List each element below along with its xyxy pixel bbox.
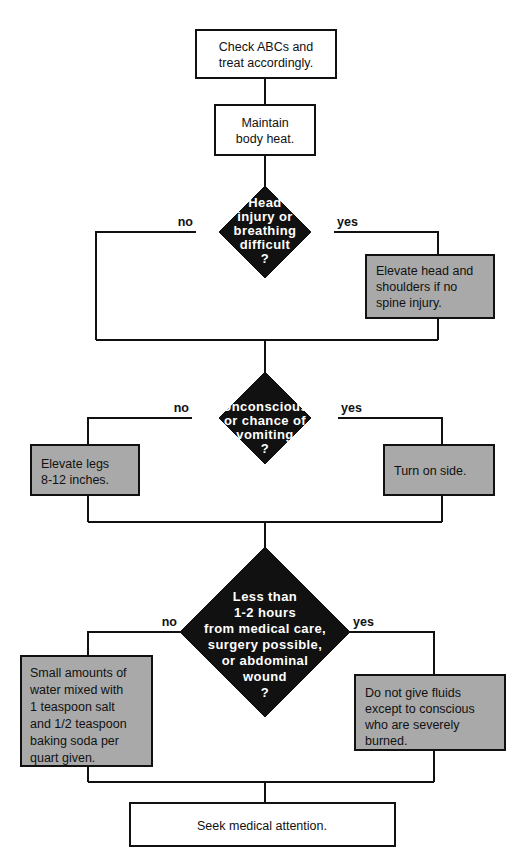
node-decision2: Unconscious or chance of vomiting ? no y… <box>174 372 362 464</box>
action-fluids-line-5: baking soda per <box>30 734 119 748</box>
warmth-line-1: Maintain <box>241 116 288 130</box>
decision2-line-4: ? <box>261 441 269 456</box>
decision1-line-2: injury or <box>237 209 293 224</box>
action-nofluids-line-1: Do not give fluids <box>365 686 461 700</box>
action-legs-line-2: 8-12 inches. <box>41 473 109 487</box>
decision3-branch-no: no <box>162 615 178 629</box>
decision2-branch-no: no <box>174 401 190 415</box>
node-action-side: Turn on side. <box>384 445 494 495</box>
warmth-line-2: body heat. <box>236 132 294 146</box>
decision1-line-3: breathing <box>234 223 297 238</box>
action-nofluids-line-2: except to conscious <box>365 702 475 716</box>
decision2-line-1: Unconscious <box>222 399 308 414</box>
decision1-line-4: difficult <box>240 237 291 252</box>
decision2-line-3: vomiting <box>236 427 293 442</box>
action-fluids-line-3: 1 teaspoon salt <box>30 700 115 714</box>
warmth-box <box>215 105 315 155</box>
node-warmth: Maintain body heat. <box>215 105 315 155</box>
flowchart-canvas: Check ABCs and treat accordingly. Mainta… <box>0 0 528 867</box>
decision1-branch-yes: yes <box>337 215 358 229</box>
decision3-line-7: ? <box>261 685 269 700</box>
decision3-line-5: or abdominal <box>222 653 308 668</box>
action-legs-line-1: Elevate legs <box>41 457 109 471</box>
node-decision1: Head injury or breathing difficult ? no … <box>178 186 358 278</box>
action-fluids-line-4: and 1/2 teaspoon <box>30 717 127 731</box>
action-head-line-3: spine injury. <box>376 296 442 310</box>
decision3-line-4: surgery possible, <box>208 637 322 652</box>
node-decision3: Less than 1-2 hours from medical care, s… <box>162 547 374 717</box>
action-fluids-line-2: water mixed with <box>29 683 123 697</box>
action-head-line-1: Elevate head and <box>376 264 473 278</box>
node-action-nofluids: Do not give fluids except to conscious w… <box>355 675 505 750</box>
decision2-branch-yes: yes <box>341 401 362 415</box>
decision1-line-1: Head <box>248 195 281 210</box>
flowchart-svg: Check ABCs and treat accordingly. Mainta… <box>0 0 528 867</box>
node-action-fluids: Small amounts of water mixed with 1 teas… <box>21 656 152 766</box>
action-head-line-2: shoulders if no <box>376 280 457 294</box>
node-action-head: Elevate head and shoulders if no spine i… <box>366 255 494 318</box>
action-nofluids-line-3: who are severely <box>364 718 460 732</box>
start-line-1: Check ABCs and <box>219 40 314 54</box>
action-side-line-1: Turn on side. <box>394 464 467 478</box>
decision1-branch-no: no <box>178 215 194 229</box>
connector-decision1-no <box>96 232 196 340</box>
end-line-1: Seek medical attention. <box>197 819 327 833</box>
action-fluids-line-6: quart given. <box>30 751 95 765</box>
decision3-line-1: Less than <box>233 589 297 604</box>
node-start: Check ABCs and treat accordingly. <box>196 30 336 78</box>
decision3-line-2: 1-2 hours <box>234 605 296 620</box>
action-fluids-line-1: Small amounts of <box>30 666 127 680</box>
node-action-legs: Elevate legs 8-12 inches. <box>31 445 139 495</box>
action-nofluids-line-4: burned. <box>365 734 407 748</box>
decision1-line-5: ? <box>261 251 269 266</box>
start-line-2: treat accordingly. <box>219 56 313 70</box>
start-box <box>196 30 336 78</box>
node-end: Seek medical attention. <box>130 803 395 846</box>
decision2-line-2: or chance of <box>224 413 306 428</box>
decision3-line-3: from medical care, <box>204 621 326 636</box>
decision3-branch-yes: yes <box>353 615 374 629</box>
decision3-line-6: wound <box>242 669 287 684</box>
